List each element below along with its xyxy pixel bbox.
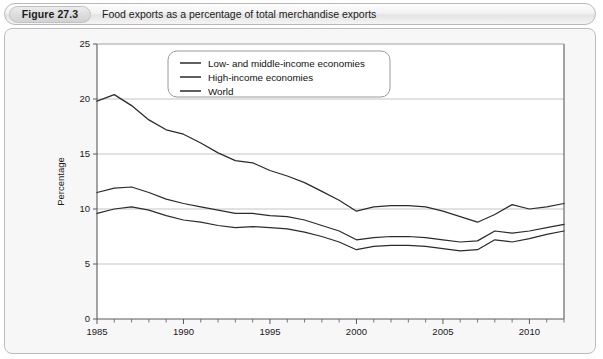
x-tick-label-1990: 1990 [173, 326, 194, 337]
chart-panel: 0510152025Percentage19851990199520002005… [4, 28, 596, 354]
y-tick-label-10: 10 [79, 203, 90, 214]
y-tick-label-25: 25 [79, 38, 90, 49]
y-tick-label-5: 5 [85, 258, 90, 269]
x-tick-label-2000: 2000 [346, 326, 367, 337]
legend-label-2: World [208, 86, 233, 97]
figure-caption: Food exports as a percentage of total me… [102, 8, 376, 20]
y-tick-label-20: 20 [79, 93, 90, 104]
line-chart: 0510152025Percentage19851990199520002005… [5, 29, 596, 354]
figure-number-badge: Figure 27.3 [9, 6, 91, 23]
y-tick-label-0: 0 [85, 313, 90, 324]
y-tick-label-15: 15 [79, 148, 90, 159]
legend-label-1: High-income economies [208, 72, 313, 83]
plot-area: 0510152025Percentage19851990199520002005… [5, 29, 596, 354]
x-tick-label-2005: 2005 [432, 326, 453, 337]
x-tick-label-2010: 2010 [519, 326, 540, 337]
x-tick-label-1985: 1985 [86, 326, 107, 337]
legend-label-0: Low- and middle-income economies [208, 58, 365, 69]
y-axis-title: Percentage [55, 157, 66, 206]
figure-container: Figure 27.3 Food exports as a percentage… [0, 0, 603, 359]
figure-header: Figure 27.3 Food exports as a percentage… [4, 3, 596, 25]
x-tick-label-1995: 1995 [259, 326, 280, 337]
